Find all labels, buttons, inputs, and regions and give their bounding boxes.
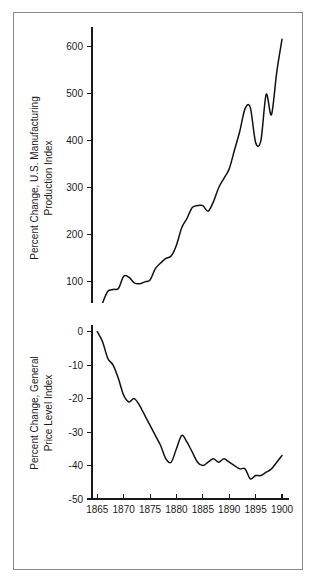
x-tick-label-group-bottom: 18651870187518801885189018951900 [86,504,293,515]
figure-outer-frame: 0100200300400500600 18651870187518801885… [13,12,303,570]
manufacturing-chart-svg: 0100200300400500600 18651870187518801885… [14,13,304,303]
y-tick-label: 600 [66,41,83,52]
price-level-chart-svg: 0-10-20-30-40-50 18651870187518801885189… [14,303,304,571]
y-tick-label: 200 [66,229,83,240]
x-tick-label: 1870 [113,504,136,515]
y-axis-title-bottom-line1: Percent Change, General [29,356,40,469]
price-level-data-line [97,332,282,479]
figure-root: 0100200300400500600 18651870187518801885… [0,0,316,584]
x-tick-group-bottom [97,494,282,499]
y-tick-label: -20 [69,393,84,404]
chart-panel-manufacturing: 0100200300400500600 18651870187518801885… [14,13,304,303]
y-tick-label: 500 [66,88,83,99]
x-tick-label: 1885 [192,504,215,515]
y-tick-label-group-top: 0100200300400500600 [66,41,83,303]
y-tick-group-bottom [87,332,92,499]
y-tick-label: -50 [69,494,84,505]
y-axis-title-top-line2: Production Index [43,140,54,215]
y-tick-label-group-bottom: 0-10-20-30-40-50 [69,326,84,504]
x-tick-label: 1865 [86,504,109,515]
x-tick-label: 1895 [244,504,267,515]
y-tick-label: 300 [66,182,83,193]
y-tick-label: 400 [66,135,83,146]
y-tick-group-top [87,46,92,303]
y-tick-label: -30 [69,427,84,438]
y-tick-label: 100 [66,276,83,287]
y-axis-title-top-line1: Percent Change, U.S. Manufacturing [29,96,40,259]
manufacturing-data-line [92,39,282,303]
y-tick-label: -40 [69,460,84,471]
x-tick-label: 1890 [218,504,241,515]
y-tick-label: 0 [77,326,83,337]
x-tick-label: 1900 [271,504,294,515]
y-tick-label: -10 [69,360,84,371]
y-axis-title-bottom-line2: Price Level Index [43,375,54,452]
x-tick-label: 1880 [165,504,188,515]
x-tick-label: 1875 [139,504,162,515]
chart-panel-price-level: 0-10-20-30-40-50 18651870187518801885189… [14,303,304,571]
